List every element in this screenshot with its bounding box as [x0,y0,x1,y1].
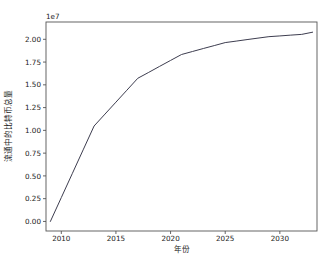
x-tick-label: 2025 [216,234,234,243]
y-tick-label: 1.25 [25,103,41,112]
y-tick-label: 1.00 [25,126,41,135]
line-chart: 0.000.250.500.751.001.251.501.752.00 201… [0,0,330,274]
x-axis-title: 年份 [174,244,190,254]
y-tick-label: 0.50 [25,172,41,181]
x-tick-label: 2030 [271,234,290,243]
x-tick-label: 2020 [161,234,180,243]
x-tick-label: 2010 [52,234,71,243]
y-tick-label: 0.00 [25,217,41,226]
chart-figure: 0.000.250.500.751.001.251.501.752.00 201… [0,0,330,274]
y-tick-label: 0.25 [25,194,41,203]
y-tick-label: 1.75 [25,58,41,67]
figure-background [0,0,330,274]
x-tick-label: 2015 [107,234,125,243]
y-tick-label: 1.50 [25,80,41,89]
y-axis-offset-label: 1e7 [46,12,60,21]
y-tick-label: 0.75 [25,149,41,158]
y-axis-tick-labels: 0.000.250.500.751.001.251.501.752.00 [25,35,41,226]
y-tick-label: 2.00 [25,35,41,44]
y-axis-title: 流通中的比特币总量 [3,90,13,162]
